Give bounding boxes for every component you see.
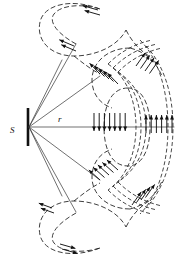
arrow-group-top-loop-arrow-2: [85, 10, 100, 15]
ray-lower-outer: [29, 127, 76, 212]
arrow-group-bottom-loop-inner-arrow-1: [39, 203, 52, 208]
arrow-group-right-up-arrow-4: [160, 115, 164, 133]
arrow-group-bottom-loop-arrow-1: [60, 244, 75, 249]
arrow-group-lower-diagonal: [89, 160, 118, 180]
arrow-group-center-down-arrow-1: [92, 113, 96, 131]
arrow-group-right-up-arrow-1: [144, 115, 148, 133]
arrow-layer: [39, 5, 175, 254]
outer-top-loop: [39, 3, 152, 58]
outer-bottom-loop-inner: [52, 213, 100, 251]
arrow-group-center-down: [92, 113, 127, 131]
mid-upper-lobe: [92, 48, 162, 108]
arrow-group-bottom-loop-inner-arrow-2: [41, 208, 54, 213]
radius-label: r: [58, 114, 62, 124]
arrow-group-center-down-arrow-2: [97, 113, 101, 131]
arrow-group-upper-diagonal: [90, 63, 118, 84]
arrow-group-upper-left-pair: [59, 40, 76, 51]
source-label: S: [10, 125, 15, 135]
ray-upper-outer: [29, 44, 76, 127]
arrow-group-center-down-arrow-4: [108, 113, 112, 131]
arrow-group-center-down-arrow-5: [113, 113, 117, 131]
arrow-group-center-down-arrow-3: [103, 113, 107, 131]
field-diagram-canvas: S r: [0, 0, 175, 257]
outer-top-loop-inner: [52, 6, 100, 44]
mid-lower-lobe: [92, 149, 162, 209]
arrow-group-right-up: [144, 115, 175, 133]
arrow-group-center-down-arrow-7: [123, 113, 127, 131]
ray-lower-inner: [29, 127, 100, 180]
radiation-field-figure: S r: [0, 0, 175, 257]
ray-lower-extra: [29, 127, 62, 196]
ray-upper-inner: [29, 76, 100, 127]
arrow-group-center-down-arrow-6: [118, 113, 122, 131]
outer-bottom-loop: [39, 199, 152, 254]
arrow-group-right-up-arrow-3: [155, 115, 159, 133]
